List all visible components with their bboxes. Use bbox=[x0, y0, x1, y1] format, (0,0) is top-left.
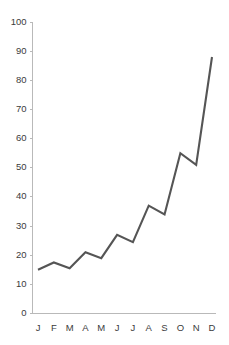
y-axis-tick-label: 90 bbox=[16, 45, 27, 56]
y-axis-tick-label: 40 bbox=[16, 190, 27, 201]
x-axis-tick-label: J bbox=[36, 322, 41, 333]
x-axis-tick-label: A bbox=[82, 322, 89, 333]
x-axis-tick-label: S bbox=[161, 322, 167, 333]
y-axis-tick-label: 10 bbox=[16, 278, 27, 289]
y-axis-tick-label: 80 bbox=[16, 74, 27, 85]
y-axis-tick-label: 20 bbox=[16, 249, 27, 260]
y-axis-tick-label: 100 bbox=[11, 16, 27, 27]
x-axis-tick-label: M bbox=[66, 322, 74, 333]
line-chart: 0102030405060708090100 JFMAMJJASOND bbox=[0, 0, 229, 345]
y-axis-tick-label: 30 bbox=[16, 220, 27, 231]
chart-canvas: 0102030405060708090100 JFMAMJJASOND bbox=[0, 0, 229, 345]
y-axis-tick-label: 50 bbox=[16, 161, 27, 172]
x-axis-tick-label: O bbox=[177, 322, 184, 333]
x-axis-tick-label: D bbox=[209, 322, 216, 333]
y-axis-tick-label: 60 bbox=[16, 132, 27, 143]
x-axis-tick-label: J bbox=[115, 322, 120, 333]
x-axis-tick-label: A bbox=[146, 322, 153, 333]
plot-background bbox=[0, 0, 229, 345]
y-axis-tick-label: 70 bbox=[16, 103, 27, 114]
x-axis-tick-label: J bbox=[131, 322, 136, 333]
x-axis-tick-label: F bbox=[51, 322, 57, 333]
y-axis-tick-label: 0 bbox=[21, 307, 26, 318]
x-axis-tick-label: M bbox=[97, 322, 105, 333]
x-axis-tick-label: N bbox=[193, 322, 200, 333]
